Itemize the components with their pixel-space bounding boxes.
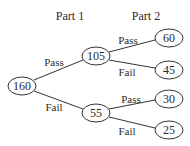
edge-label-pass-pass: Pass: [118, 34, 138, 46]
node-pass-value: 105: [87, 49, 105, 63]
edge-label-fail-fail: Fail: [118, 125, 135, 137]
node-root-value: 160: [13, 79, 31, 93]
header-part-1: Part 1: [56, 9, 84, 23]
edge-label-root-pass: Pass: [44, 56, 64, 68]
tree-diagram: Part 1 Part 2 Pass Fail Pass Fail Pass F…: [0, 0, 190, 146]
node-pass-fail-value: 45: [163, 63, 175, 77]
edge-label-root-fail: Fail: [45, 101, 62, 113]
node-fail-fail-value: 25: [163, 123, 175, 137]
node-fail-pass-value: 30: [163, 92, 175, 106]
node-fail-value: 55: [90, 106, 102, 120]
node-pass-pass-value: 60: [163, 31, 175, 45]
edge-label-pass-fail: Fail: [118, 66, 135, 78]
edge-label-fail-pass: Pass: [121, 93, 141, 105]
header-part-2: Part 2: [132, 9, 160, 23]
